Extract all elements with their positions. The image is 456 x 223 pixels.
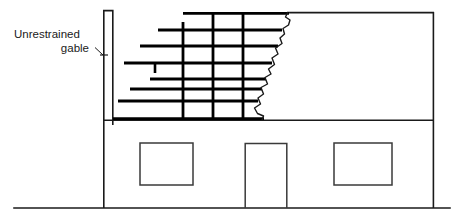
- building-outline: [104, 12, 434, 208]
- annotation-unrestrained-gable: Unrestrained gable: [14, 28, 108, 55]
- annotation-leader-line: [95, 48, 103, 56]
- door-center: [245, 143, 287, 208]
- figure-canvas: Unrestrained gable: [0, 0, 456, 223]
- window-right: [334, 143, 392, 185]
- annotation-label-line1: Unrestrained: [14, 28, 80, 40]
- unrestrained-gable-pier: [104, 11, 113, 125]
- gable-wall-elevation-diagram: Unrestrained gable: [0, 0, 456, 223]
- annotation-label-line2: gable: [61, 42, 89, 54]
- floor-joist-grid: [113, 12, 289, 120]
- window-left: [140, 143, 193, 185]
- ground-floor-openings: [140, 143, 392, 208]
